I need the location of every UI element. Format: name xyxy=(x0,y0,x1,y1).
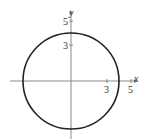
x-axis-label: x xyxy=(134,74,138,84)
y-tick-label-3: 3 xyxy=(63,41,68,51)
y-tick-label-5: 5 xyxy=(63,17,68,27)
y-axis-label: y xyxy=(69,8,73,18)
plot-area xyxy=(0,0,141,139)
x-tick-label-3: 3 xyxy=(104,85,109,95)
x-tick-label-5: 5 xyxy=(128,85,133,95)
